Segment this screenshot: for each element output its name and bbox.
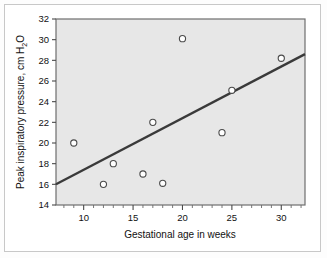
- data-point: [140, 171, 146, 177]
- data-point: [100, 181, 106, 187]
- data-point: [278, 55, 284, 61]
- y-axis-title-main: Peak inspiratory pressure, cm H: [15, 47, 26, 189]
- x-tick-label: 20: [177, 212, 188, 223]
- y-tick-label: 14: [38, 199, 49, 210]
- scatter-plot: 14161820222426283032 1015202530 Gestatio…: [0, 0, 327, 258]
- y-tick-label: 18: [38, 158, 49, 169]
- x-axis-title: Gestational age in weeks: [124, 229, 236, 240]
- y-tick-label: 20: [38, 137, 49, 148]
- y-tick-label: 22: [38, 117, 49, 128]
- data-point: [150, 119, 156, 125]
- y-tick-label: 16: [38, 179, 49, 190]
- y-tick-label: 26: [38, 75, 49, 86]
- figure: 14161820222426283032 1015202530 Gestatio…: [0, 0, 327, 258]
- x-axis-tick-labels: 1015202530: [78, 212, 286, 223]
- x-tick-label: 15: [128, 212, 139, 223]
- x-tick-label: 30: [276, 212, 287, 223]
- data-point: [229, 87, 235, 93]
- data-point: [160, 180, 166, 186]
- y-axis-tick-labels: 14161820222426283032: [38, 13, 49, 210]
- y-tick-label: 30: [38, 34, 49, 45]
- y-axis-title-tail: O: [15, 35, 26, 43]
- plot-area-background: [56, 19, 305, 205]
- y-tick-label: 24: [38, 96, 49, 107]
- data-point: [179, 36, 185, 42]
- data-point: [110, 161, 116, 167]
- data-point: [71, 140, 77, 146]
- x-tick-label: 10: [78, 212, 89, 223]
- y-tick-label: 32: [38, 13, 49, 24]
- y-axis-title: Peak inspiratory pressure, cm H2O: [15, 35, 28, 189]
- data-point: [219, 130, 225, 136]
- y-tick-label: 28: [38, 55, 49, 66]
- x-tick-label: 25: [227, 212, 238, 223]
